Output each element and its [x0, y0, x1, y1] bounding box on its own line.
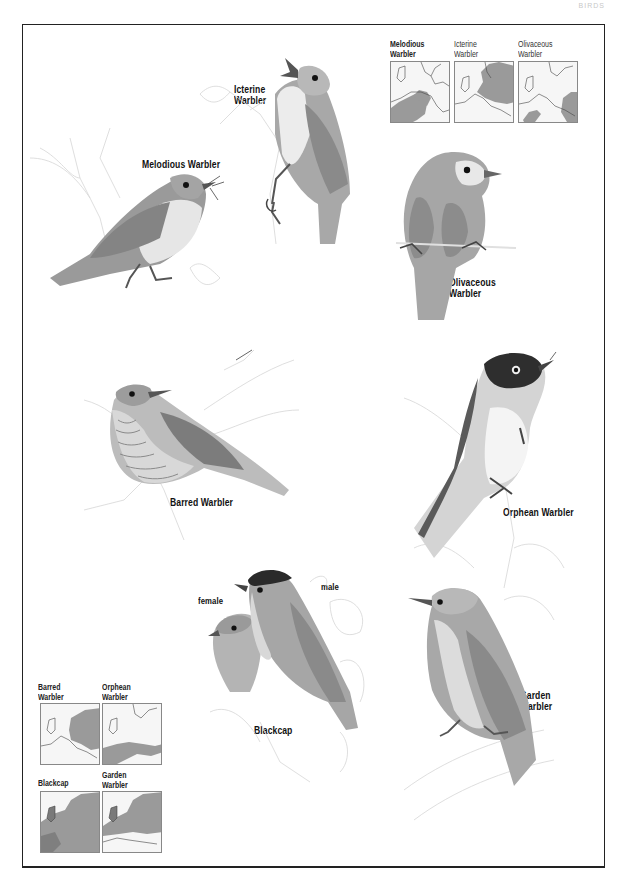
map-image [518, 61, 578, 123]
map-image [40, 703, 100, 765]
illustration-blackcap [200, 562, 380, 782]
range-map-title: Melodious Warbler [390, 40, 424, 59]
map-title-line1: Blackcap [38, 779, 69, 789]
map-title-line2: Warbler [102, 781, 128, 791]
map-title-line2: Warbler [102, 693, 131, 703]
map-title-line2: Warbler [454, 50, 478, 60]
range-map-title: Blackcap [38, 779, 69, 789]
map-image [102, 791, 162, 853]
illustration-barred-warbler [84, 350, 304, 550]
illustration-olivaceous-warbler [396, 148, 516, 323]
map-image [102, 703, 162, 765]
map-image [390, 61, 450, 123]
range-map-title: Olivaceous Warbler [518, 40, 552, 59]
illustration-melodious-warbler [30, 118, 240, 308]
range-map-title: Barred Warbler [38, 683, 64, 702]
range-map-title: Icterine Warbler [454, 40, 478, 59]
map-title-line2: Warbler [390, 50, 424, 60]
map-image [454, 61, 514, 123]
running-head: BIRDS [579, 2, 605, 9]
illustration-orphean-warbler [404, 348, 564, 588]
map-title-line2: Warbler [38, 693, 64, 703]
range-map-title: Garden Warbler [102, 771, 128, 790]
map-image [40, 791, 100, 853]
illustration-garden-warbler [404, 580, 564, 830]
map-title-line2: Warbler [518, 50, 552, 60]
range-map-title: Orphean Warbler [102, 683, 131, 702]
